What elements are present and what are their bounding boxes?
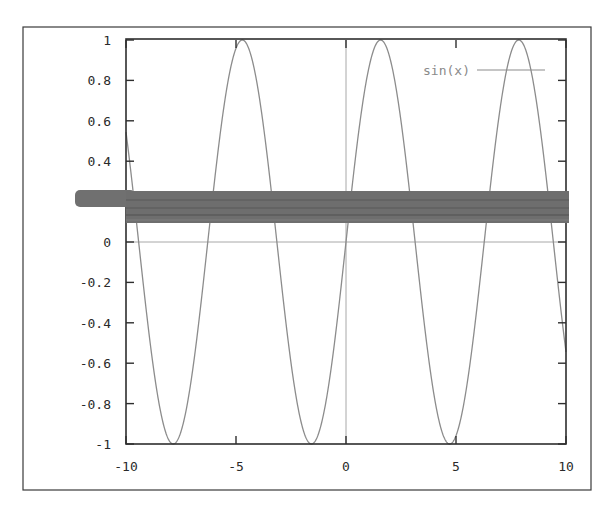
x-tick-labels: -10-50510 [114,459,574,474]
y-tick-label: 1 [103,33,111,48]
redaction-band [75,190,569,223]
y-tick-label: 0.4 [88,154,112,169]
x-tick-label: 10 [558,459,574,474]
y-tick-label: 0.6 [88,114,111,129]
y-tick-label: -0.4 [80,316,111,331]
x-tick-label: -5 [228,459,244,474]
chart-container: 10.80.60.40.20-0.2-0.4-0.6-0.8-1 -10-505… [0,0,612,508]
band-main [126,191,569,223]
y-tick-label: 0 [103,235,111,250]
y-tick-label: -1 [95,437,111,452]
legend-label: sin(x) [423,63,470,78]
legend: sin(x) [423,63,545,78]
x-tick-label: 5 [452,459,460,474]
y-tick-labels: 10.80.60.40.20-0.2-0.4-0.6-0.8-1 [80,33,111,452]
x-tick-label: 0 [342,459,350,474]
y-tick-label: -0.8 [80,397,111,412]
y-tick-label: -0.6 [80,356,111,371]
outer-frame [23,27,591,490]
x-tick-label: -10 [114,459,137,474]
sine-plot: 10.80.60.40.20-0.2-0.4-0.6-0.8-1 -10-505… [0,0,612,508]
y-tick-label: 0.8 [88,73,111,88]
y-tick-label: -0.2 [80,275,111,290]
